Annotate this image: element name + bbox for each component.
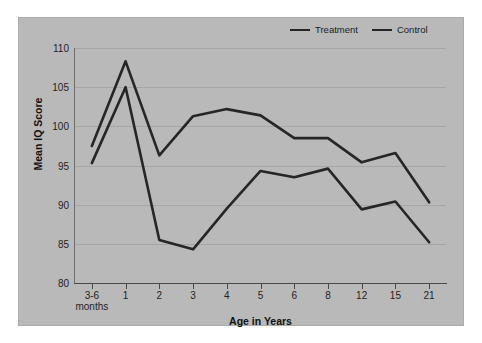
x-axis-tick [261,283,262,289]
x-axis-tick-label: 4 [224,290,230,301]
x-axis-tick [126,283,127,289]
x-axis-tick-label: 21 [424,290,435,301]
x-axis-tick-label: 3-6months [75,290,108,312]
series-lines [0,0,482,343]
series-line-treatment [92,61,429,202]
x-axis-tick [429,283,430,289]
x-axis-tick-label: 6 [291,290,297,301]
x-axis-tick [362,283,363,289]
x-axis-tick [328,283,329,289]
x-axis-tick [193,283,194,289]
x-axis-tick [294,283,295,289]
x-axis-tick-label: 2 [157,290,163,301]
x-axis-tick [159,283,160,289]
x-axis-tick [92,283,93,289]
x-axis-tick [395,283,396,289]
x-axis-tick-label: 1 [123,290,129,301]
x-axis-tick [227,283,228,289]
x-axis-tick-sublabel: months [75,301,108,312]
x-axis-tick-label: 8 [325,290,331,301]
x-axis-tick-label: 15 [390,290,401,301]
x-axis-tick-label: 12 [356,290,367,301]
x-axis-tick-label: 5 [258,290,264,301]
chart-figure: Treatment Control 11010510095908580 Mean… [0,0,482,343]
x-axis-tick-label: 3 [190,290,196,301]
